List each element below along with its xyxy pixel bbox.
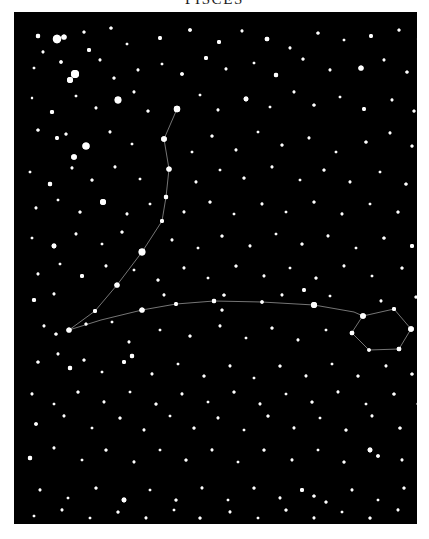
star bbox=[67, 497, 70, 500]
star bbox=[201, 487, 204, 490]
star bbox=[191, 151, 194, 154]
star bbox=[380, 300, 383, 303]
star bbox=[410, 372, 413, 375]
star bbox=[398, 426, 401, 429]
star bbox=[335, 151, 338, 154]
star bbox=[71, 167, 74, 170]
star bbox=[285, 211, 288, 214]
star bbox=[369, 517, 372, 520]
star bbox=[281, 294, 284, 297]
star bbox=[343, 461, 346, 464]
star bbox=[368, 448, 373, 453]
star bbox=[197, 247, 200, 250]
star bbox=[65, 133, 68, 136]
star bbox=[139, 307, 144, 312]
star bbox=[137, 69, 140, 72]
star bbox=[323, 169, 326, 172]
star bbox=[211, 449, 214, 452]
star bbox=[37, 273, 40, 276]
star bbox=[319, 417, 322, 420]
star bbox=[121, 231, 124, 234]
star bbox=[75, 233, 78, 236]
sky-canvas bbox=[14, 12, 417, 524]
star bbox=[362, 107, 366, 111]
star bbox=[83, 31, 86, 34]
star bbox=[129, 391, 132, 394]
star bbox=[133, 91, 136, 94]
star bbox=[253, 377, 256, 380]
star bbox=[371, 415, 374, 418]
star bbox=[115, 97, 122, 104]
star bbox=[404, 182, 407, 185]
star bbox=[29, 171, 32, 174]
star bbox=[100, 199, 106, 205]
star bbox=[293, 91, 296, 94]
star bbox=[345, 429, 348, 432]
star bbox=[217, 109, 220, 112]
star bbox=[217, 40, 221, 44]
constellation-line-group bbox=[69, 109, 411, 350]
star bbox=[59, 60, 62, 63]
star bbox=[66, 327, 71, 332]
star bbox=[291, 459, 294, 462]
star bbox=[149, 489, 152, 492]
star bbox=[89, 517, 92, 520]
star bbox=[126, 43, 129, 46]
star bbox=[389, 132, 392, 135]
star bbox=[151, 373, 154, 376]
star bbox=[241, 30, 244, 33]
star bbox=[358, 65, 363, 70]
star bbox=[209, 201, 212, 204]
star bbox=[147, 110, 150, 113]
star bbox=[392, 392, 395, 395]
star bbox=[113, 77, 116, 80]
star bbox=[415, 296, 418, 299]
star bbox=[397, 347, 402, 352]
star bbox=[233, 391, 236, 394]
star bbox=[274, 73, 278, 77]
star bbox=[39, 489, 42, 492]
star bbox=[173, 509, 176, 512]
star bbox=[229, 511, 232, 514]
star-layer bbox=[28, 26, 417, 519]
star bbox=[50, 110, 54, 114]
star bbox=[305, 375, 308, 378]
star bbox=[77, 391, 80, 394]
star bbox=[385, 365, 388, 368]
star bbox=[259, 403, 262, 406]
star bbox=[145, 517, 148, 520]
star bbox=[175, 499, 178, 502]
star bbox=[350, 331, 355, 336]
star bbox=[204, 56, 208, 60]
star bbox=[325, 501, 328, 504]
star bbox=[253, 62, 256, 65]
star bbox=[408, 326, 414, 332]
star bbox=[82, 142, 89, 149]
star bbox=[32, 298, 36, 302]
star bbox=[111, 321, 114, 324]
star bbox=[260, 300, 263, 303]
star bbox=[57, 353, 60, 356]
star bbox=[122, 360, 126, 364]
star bbox=[235, 265, 238, 268]
star bbox=[379, 171, 382, 174]
star bbox=[95, 487, 98, 490]
star bbox=[235, 149, 238, 152]
star bbox=[54, 332, 57, 335]
star bbox=[225, 68, 228, 71]
constellation-line-western-cord-arc bbox=[69, 301, 363, 330]
star bbox=[329, 295, 332, 298]
star bbox=[188, 28, 192, 32]
star bbox=[365, 403, 368, 406]
star bbox=[34, 422, 38, 426]
star bbox=[109, 131, 112, 134]
star bbox=[114, 166, 117, 169]
star bbox=[43, 325, 46, 328]
sky-field bbox=[14, 12, 417, 524]
star bbox=[267, 415, 270, 418]
star bbox=[279, 497, 282, 500]
star bbox=[360, 313, 366, 319]
star bbox=[68, 366, 72, 370]
star bbox=[249, 245, 252, 248]
star bbox=[52, 244, 57, 249]
